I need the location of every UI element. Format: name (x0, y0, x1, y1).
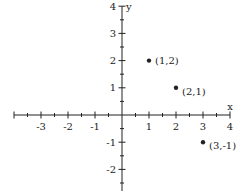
x-tick-label: -1 (90, 121, 100, 132)
x-tick-label: 3 (200, 121, 206, 132)
x-tick-label: -3 (36, 121, 46, 132)
x-tick-label: 1 (146, 121, 152, 132)
data-point-label: (1,2) (155, 55, 179, 66)
y-tick-label: 4 (110, 1, 116, 12)
data-point-label: (2,1) (182, 86, 206, 97)
y-tick-label: -2 (106, 164, 116, 175)
x-tick-label: 4 (227, 121, 233, 132)
data-point (201, 140, 205, 144)
x-tick-label: 2 (173, 121, 179, 132)
data-point-label: (3,-1) (209, 140, 236, 151)
y-tick-label: -1 (106, 137, 116, 148)
y-tick-label: 3 (110, 28, 116, 39)
x-axis-label: x (227, 101, 233, 112)
data-point (147, 58, 151, 62)
data-point (174, 86, 178, 90)
y-tick-label: 1 (110, 82, 116, 93)
y-tick-label: 2 (110, 55, 116, 66)
x-tick-label: -2 (63, 121, 73, 132)
coordinate-plane: -3-2-11234-2-11234xy(1,2)(2,1)(3,-1) (0, 0, 251, 191)
y-axis-label: y (125, 1, 132, 12)
